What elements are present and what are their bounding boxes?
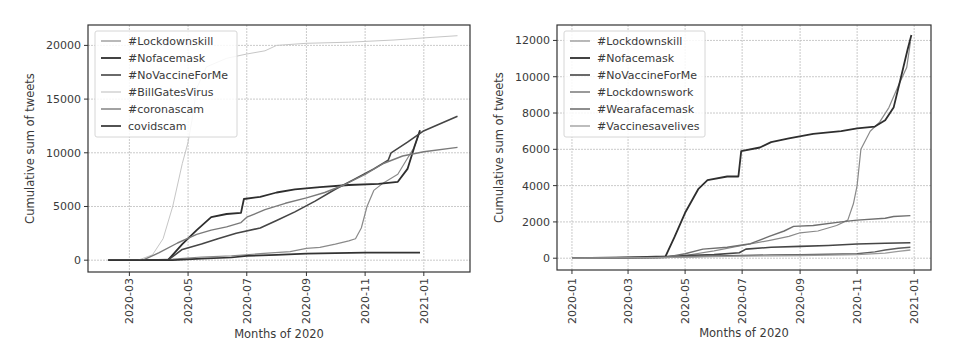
chart-right-hashtags-cumulative: 0200040006000800010000120002020-012020-0…: [492, 25, 931, 340]
y-axis-label: Cumulative sum of tweets: [492, 72, 506, 223]
x-tick-label: 2020-09: [794, 278, 807, 324]
y-tick-label: 6000: [522, 143, 550, 156]
x-tick-label: 2020-05: [679, 278, 692, 324]
x-tick-label: 2020-11: [851, 278, 864, 324]
y-tick-label: 12000: [515, 34, 550, 47]
x-axis-label: Months of 2020: [234, 327, 324, 341]
y-axis-ticks: 05000100001500020000: [46, 39, 88, 267]
x-tick-label: 2020-03: [123, 278, 136, 324]
x-tick-label: 2020-07: [736, 278, 749, 324]
x-axis-ticks: 2020-012020-032020-052020-072020-092020-…: [566, 270, 921, 324]
legend-label: #BillGatesVirus: [128, 86, 214, 99]
y-tick-label: 5000: [53, 200, 81, 213]
y-tick-label: 0: [543, 252, 550, 265]
y-tick-label: 4000: [522, 180, 550, 193]
x-axis-ticks: 2020-032020-052020-072020-092020-112021-…: [123, 272, 430, 324]
legend-label: #Lockdownswork: [597, 86, 694, 99]
y-tick-label: 0: [74, 254, 81, 267]
x-axis-label: Months of 2020: [699, 326, 789, 340]
x-tick-label: 2021-01: [908, 278, 921, 324]
x-tick-label: 2020-07: [241, 278, 254, 324]
x-tick-label: 2020-05: [182, 278, 195, 324]
y-tick-label: 2000: [522, 216, 550, 229]
legend-label: #NoVaccineForMe: [597, 69, 697, 82]
y-tick-label: 8000: [522, 107, 550, 120]
x-tick-label: 2020-11: [359, 278, 372, 324]
x-tick-label: 2020-01: [566, 278, 579, 324]
y-axis-label: Cumulative sum of tweets: [23, 73, 37, 224]
legend: #Lockdownskill#Nofacemask#NoVaccineForMe…: [564, 31, 705, 137]
legend-label: #Lockdownskill: [128, 35, 213, 48]
legend-label: #Lockdownskill: [597, 35, 682, 48]
figure: 050001000015000200002020-032020-052020-0…: [0, 0, 955, 358]
x-tick-label: 2021-01: [418, 278, 431, 324]
legend: #Lockdownskill#Nofacemask#NoVaccineForMe…: [95, 31, 237, 137]
y-axis-ticks: 020004000600080001000012000: [515, 34, 557, 265]
x-tick-label: 2020-09: [300, 278, 313, 324]
chart-left-hashtags-cumulative: 050001000015000200002020-032020-052020-0…: [23, 25, 470, 341]
legend-label: #NoVaccineForMe: [128, 69, 228, 82]
legend-label: covidscam: [128, 120, 187, 133]
y-tick-label: 15000: [46, 93, 81, 106]
legend-label: #Vaccinesavelives: [597, 120, 700, 133]
y-tick-label: 10000: [515, 71, 550, 84]
legend-label: #Nofacemask: [597, 52, 675, 65]
x-tick-label: 2020-03: [622, 278, 635, 324]
y-tick-label: 20000: [46, 39, 81, 52]
legend-label: #coronascam: [128, 103, 204, 116]
y-tick-label: 10000: [46, 147, 81, 160]
legend-label: #Nofacemask: [128, 52, 206, 65]
legend-label: #Wearafacemask: [597, 103, 695, 116]
